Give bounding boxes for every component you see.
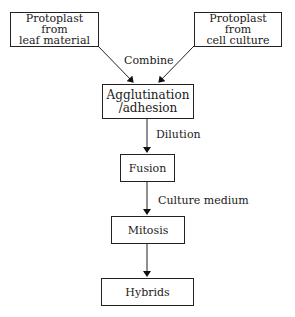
node-leaf-protoplast: Protoplast from leaf material [10, 12, 99, 47]
node-label: Mitosis [128, 225, 169, 236]
node-label: Protoplast from cell culture [206, 13, 269, 46]
node-label: Fusion [129, 163, 167, 174]
edge-label-combine: Combine [124, 54, 174, 67]
edge-label-culture-medium: Culture medium [158, 194, 249, 207]
node-agglutination: Agglutination /adhesion [102, 84, 194, 119]
node-mitosis: Mitosis [111, 216, 185, 244]
node-label: Protoplast from leaf material [19, 13, 90, 46]
node-cell-protoplast: Protoplast from cell culture [194, 12, 282, 47]
node-hybrids: Hybrids [101, 278, 194, 306]
edge-label-dilution: Dilution [156, 128, 201, 141]
node-fusion: Fusion [120, 154, 175, 182]
node-label: Hybrids [125, 287, 169, 298]
node-label: Agglutination /adhesion [107, 89, 190, 115]
